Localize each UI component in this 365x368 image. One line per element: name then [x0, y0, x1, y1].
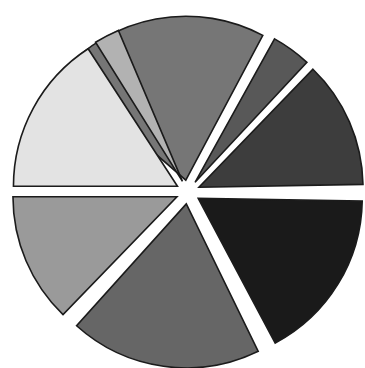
pie-chart-canvas: [0, 0, 365, 368]
pie-chart-figure: [0, 0, 365, 368]
